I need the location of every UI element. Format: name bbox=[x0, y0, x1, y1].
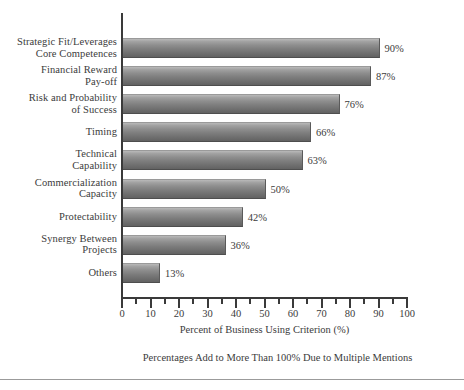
tick-major bbox=[121, 299, 123, 308]
bar-value-label: 42% bbox=[243, 211, 267, 222]
tick-label: 60 bbox=[288, 308, 299, 319]
bar-value-label: 63% bbox=[303, 155, 327, 166]
tick-major bbox=[207, 299, 209, 308]
tick-major bbox=[378, 299, 380, 308]
tick-label: 30 bbox=[202, 308, 213, 319]
bar-row: Protectability42% bbox=[0, 203, 464, 231]
tick-label: 20 bbox=[174, 308, 185, 319]
tick-label: 40 bbox=[231, 308, 242, 319]
tick-minor bbox=[363, 299, 365, 304]
bar-track: 90% bbox=[123, 34, 408, 62]
tick-label: 0 bbox=[119, 308, 124, 319]
tick-minor bbox=[164, 299, 166, 304]
tick-minor bbox=[335, 299, 337, 304]
bar-track: 63% bbox=[123, 146, 408, 174]
tick-minor bbox=[392, 299, 394, 304]
tick-label: 70 bbox=[316, 308, 327, 319]
bar bbox=[123, 235, 226, 255]
bar-value-label: 87% bbox=[371, 71, 395, 82]
category-label: Risk and Probability of Success bbox=[0, 93, 117, 116]
bar-value-label: 13% bbox=[160, 267, 184, 278]
tick-major bbox=[178, 299, 180, 308]
category-label: Synergy Between Projects bbox=[0, 233, 117, 256]
tick-minor bbox=[221, 299, 223, 304]
bar-row: Others13% bbox=[0, 259, 464, 287]
bar bbox=[123, 38, 380, 58]
tick-label: 50 bbox=[259, 308, 270, 319]
bar-row: Financial Reward Pay-off87% bbox=[0, 62, 464, 90]
bar-track: 87% bbox=[123, 62, 408, 90]
tick-major bbox=[264, 299, 266, 308]
bar bbox=[123, 207, 243, 227]
bar-track: 50% bbox=[123, 174, 408, 202]
bar bbox=[123, 122, 311, 142]
bar-track: 13% bbox=[123, 259, 408, 287]
category-label: Protectability bbox=[0, 211, 117, 223]
bar-value-label: 90% bbox=[380, 43, 404, 54]
tick-major bbox=[235, 299, 237, 308]
tick-label: 90 bbox=[373, 308, 384, 319]
tick-label: 10 bbox=[145, 308, 156, 319]
bar bbox=[123, 66, 371, 86]
bar-track: 42% bbox=[123, 203, 408, 231]
chart-footnote: Percentages Add to More Than 100% Due to… bbox=[105, 352, 450, 363]
bottom-rule bbox=[0, 379, 464, 380]
tick-minor bbox=[306, 299, 308, 304]
x-axis-tick-labels: 0102030405060708090100 bbox=[121, 308, 410, 324]
tick-major bbox=[406, 299, 408, 308]
bar bbox=[123, 179, 266, 199]
tick-major bbox=[349, 299, 351, 308]
bar-track: 76% bbox=[123, 90, 408, 118]
bar-track: 36% bbox=[123, 231, 408, 259]
tick-major bbox=[321, 299, 323, 308]
bar bbox=[123, 263, 160, 283]
tick-label: 80 bbox=[345, 308, 356, 319]
category-label: Timing bbox=[0, 127, 117, 139]
bar-row: Risk and Probability of Success76% bbox=[0, 90, 464, 118]
category-label: Others bbox=[0, 267, 117, 279]
plot-area: Strategic Fit/Leverages Core Competences… bbox=[0, 0, 464, 340]
bar-value-label: 50% bbox=[266, 183, 290, 194]
bar-row: Timing66% bbox=[0, 118, 464, 146]
category-label: Technical Capability bbox=[0, 149, 117, 172]
figure-bar-chart: Strategic Fit/Leverages Core Competences… bbox=[0, 0, 464, 390]
bar bbox=[123, 94, 340, 114]
tick-minor bbox=[192, 299, 194, 304]
bar-value-label: 66% bbox=[311, 127, 335, 138]
category-label: Commercialization Capacity bbox=[0, 177, 117, 200]
tick-major bbox=[292, 299, 294, 308]
bar-row: Strategic Fit/Leverages Core Competences… bbox=[0, 34, 464, 62]
bar-row: Technical Capability63% bbox=[0, 146, 464, 174]
bar-value-label: 76% bbox=[340, 99, 364, 110]
tick-major bbox=[150, 299, 152, 308]
tick-minor bbox=[249, 299, 251, 304]
category-label: Financial Reward Pay-off bbox=[0, 65, 117, 88]
bar-track: 66% bbox=[123, 118, 408, 146]
bar-rows: Strategic Fit/Leverages Core Competences… bbox=[0, 34, 464, 287]
x-axis-title: Percent of Business Using Criterion (%) bbox=[121, 324, 408, 335]
tick-label: 100 bbox=[399, 308, 415, 319]
tick-minor bbox=[278, 299, 280, 304]
bar-value-label: 36% bbox=[226, 239, 250, 250]
category-label: Strategic Fit/Leverages Core Competences bbox=[0, 36, 117, 59]
bar-row: Synergy Between Projects36% bbox=[0, 231, 464, 259]
bar-row: Commercialization Capacity50% bbox=[0, 174, 464, 202]
bar bbox=[123, 150, 303, 170]
tick-minor bbox=[135, 299, 137, 304]
